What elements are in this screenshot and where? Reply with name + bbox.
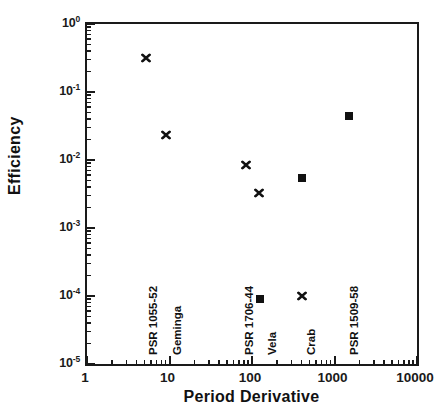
x-axis-major-tick — [86, 356, 88, 365]
y-axis-minor-tick — [86, 298, 91, 300]
y-axis-minor-tick — [86, 310, 91, 312]
data-point-square — [256, 295, 264, 303]
y-axis-major-tick — [86, 23, 95, 25]
y-axis-minor-tick — [86, 343, 91, 345]
pulsar-label: PSR 1055-52 — [147, 286, 159, 355]
y-axis-major-tick — [86, 295, 95, 297]
pulsar-label: PSR 1706-44 — [243, 286, 255, 355]
y-axis-minor-tick — [86, 59, 91, 61]
x-axis-minor-tick — [238, 360, 240, 365]
x-axis-minor-tick — [276, 360, 278, 365]
x-axis-minor-tick — [383, 360, 385, 365]
y-axis-minor-tick — [86, 234, 91, 236]
y-axis-minor-tick — [86, 139, 91, 141]
data-point-square — [345, 112, 353, 120]
x-axis-minor-tick — [398, 360, 400, 365]
y-axis-minor-tick — [86, 94, 91, 96]
y-axis-minor-tick — [86, 302, 91, 304]
x-axis-minor-tick — [194, 360, 196, 365]
x-axis-minor-tick — [391, 360, 393, 365]
y-axis-major-tick — [86, 159, 95, 161]
pulsar-label: Geminga — [171, 306, 183, 355]
y-axis-minor-tick — [86, 254, 91, 256]
data-point-x — [297, 292, 307, 301]
y-axis-tick-label: 10-5 — [59, 354, 80, 370]
data-point-square — [298, 174, 306, 182]
y-axis-minor-tick — [86, 207, 91, 209]
x-axis-minor-tick — [315, 360, 317, 365]
x-axis-minor-tick — [150, 360, 152, 365]
y-axis-minor-tick — [86, 30, 91, 32]
y-axis-minor-tick — [86, 106, 91, 108]
data-point-x — [254, 188, 264, 197]
x-axis-minor-tick — [326, 360, 328, 365]
y-axis-minor-tick — [86, 331, 91, 333]
x-axis-minor-tick — [161, 360, 163, 365]
x-axis-minor-tick — [126, 360, 128, 365]
y-axis-minor-tick — [86, 238, 91, 240]
y-axis-tick-label: 10-2 — [59, 150, 80, 166]
y-axis-minor-tick — [86, 166, 91, 168]
x-axis-minor-tick — [208, 360, 210, 365]
x-axis-tick-label: 10000 — [396, 370, 434, 385]
data-point-x — [241, 160, 251, 169]
y-axis-minor-tick — [86, 230, 91, 232]
y-axis-minor-tick — [86, 162, 91, 164]
x-axis-minor-tick — [373, 360, 375, 365]
y-axis-minor-tick — [86, 44, 91, 46]
x-axis-minor-tick — [247, 360, 249, 365]
x-axis-minor-tick — [330, 360, 332, 365]
x-axis-minor-tick — [226, 360, 228, 365]
y-axis-minor-tick — [86, 316, 91, 318]
y-axis-minor-tick — [86, 170, 91, 172]
x-axis-tick-label: 100 — [239, 370, 262, 385]
chart-root: Efficiency 10010-110-210-310-410-5 11010… — [0, 0, 448, 413]
y-axis-title: Efficiency — [6, 116, 24, 195]
x-axis-major-tick — [416, 356, 418, 365]
pulsar-label: Vela — [266, 332, 278, 355]
x-axis-minor-tick — [111, 360, 113, 365]
data-point-x — [141, 53, 151, 62]
x-axis-minor-tick — [156, 360, 158, 365]
y-axis-minor-tick — [86, 322, 91, 324]
x-axis-major-tick — [334, 356, 336, 365]
x-axis-tick-label: 10 — [160, 370, 175, 385]
y-axis-minor-tick — [86, 174, 91, 176]
y-axis-minor-tick — [86, 26, 91, 28]
y-axis-minor-tick — [86, 306, 91, 308]
y-axis-minor-tick — [86, 248, 91, 250]
x-axis-tick-label: 1 — [81, 370, 89, 385]
y-axis-minor-tick — [86, 195, 91, 197]
x-axis-minor-tick — [412, 360, 414, 365]
x-axis-minor-tick — [165, 360, 167, 365]
x-axis-minor-tick — [233, 360, 235, 365]
y-axis-minor-tick — [86, 118, 91, 120]
y-axis-minor-tick — [86, 263, 91, 265]
x-axis-minor-tick — [218, 360, 220, 365]
y-axis-minor-tick — [86, 50, 91, 52]
y-axis-tick-label: 10-3 — [59, 218, 80, 234]
x-axis-minor-tick — [359, 360, 361, 365]
x-axis-minor-tick — [403, 360, 405, 365]
x-axis-tick-label: 1000 — [317, 370, 347, 385]
x-axis-minor-tick — [408, 360, 410, 365]
y-axis-minor-tick — [86, 242, 91, 244]
y-axis-minor-tick — [86, 98, 91, 100]
y-axis-minor-tick — [86, 102, 91, 104]
y-axis-minor-tick — [86, 180, 91, 182]
x-axis-title: Period Derivative — [0, 388, 448, 406]
y-axis-tick-label: 10-4 — [59, 286, 80, 302]
pulsar-label: Crab — [305, 329, 317, 355]
y-axis-minor-tick — [86, 38, 91, 40]
data-point-x — [161, 131, 171, 140]
y-axis-tick-label: 10-1 — [59, 82, 80, 98]
y-axis-tick-label: 100 — [62, 14, 80, 30]
y-axis-minor-tick — [86, 112, 91, 114]
y-axis-major-tick — [86, 227, 95, 229]
y-axis-minor-tick — [86, 34, 91, 36]
x-axis-minor-tick — [321, 360, 323, 365]
y-axis-major-tick — [86, 91, 95, 93]
x-axis-minor-tick — [309, 360, 311, 365]
x-axis-minor-tick — [301, 360, 303, 365]
y-axis-minor-tick — [86, 275, 91, 277]
